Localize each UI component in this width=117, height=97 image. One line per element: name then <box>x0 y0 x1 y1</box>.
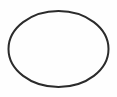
ellipse-figure-svg <box>0 0 117 97</box>
canvas-background <box>0 0 117 97</box>
figure-canvas <box>0 0 117 97</box>
